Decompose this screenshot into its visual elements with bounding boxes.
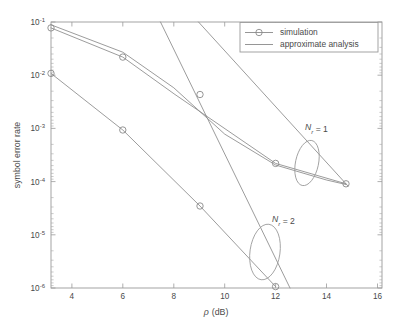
figure-container: 4 6 8 10 12 14 16 [0, 0, 398, 326]
legend[interactable]: simulation approximate analysis [240, 23, 378, 53]
annotation-label-nr-1: Nr = 1 [305, 122, 328, 135]
annotation-label-nr-2: Nr = 2 [272, 214, 295, 227]
y-tick-base: 10 [31, 71, 41, 80]
legend-label-simulation: simulation [280, 27, 318, 37]
series-sim-nr2 [48, 70, 279, 290]
y-tick-exponent: -1 [40, 17, 46, 23]
series-approx-nr2-a [161, 22, 291, 288]
y-tick-exponent: -5 [40, 230, 46, 236]
y-tick-base: 10 [31, 178, 41, 187]
y-tick-label: 10-4 [31, 177, 46, 187]
y-axis-title: symbol error rate [12, 122, 22, 189]
x-tick-label: 14 [322, 292, 332, 301]
y-tick-exponent: -3 [40, 123, 46, 129]
y-tick-label: 10-3 [31, 123, 46, 133]
annotation-labels: Nr = 1 Nr = 2 [272, 122, 328, 227]
y-tick-exponent: -2 [40, 70, 46, 76]
annotation-ellipse-nr2 [246, 222, 284, 282]
y-tick-exponent: -4 [40, 177, 46, 183]
x-tick-label: 10 [220, 292, 230, 301]
x-tick-label: 6 [121, 292, 126, 301]
y-tick-base: 10 [31, 284, 41, 293]
annotation-rest: = 2 [280, 216, 295, 226]
annotation-rest: = 1 [313, 124, 328, 134]
y-tick-label: 10-5 [31, 230, 46, 240]
annotation-ellipse-nr1 [291, 138, 323, 188]
x-tick-labels: 4 6 8 10 12 14 16 [70, 292, 383, 301]
y-tick-labels: 10-1 10-2 10-3 10-4 10-5 10-6 [31, 17, 46, 293]
chart-canvas: 4 6 8 10 12 14 16 [0, 0, 398, 326]
y-tick-base: 10 [31, 231, 41, 240]
x-tick-label: 8 [172, 292, 177, 301]
x-axis-title: ρ(dB) [203, 307, 229, 317]
y-tick-base: 10 [31, 124, 41, 133]
x-tick-label: 4 [70, 292, 75, 301]
y-axis-ticks [51, 22, 382, 288]
x-axis-title-symbol: ρ [203, 307, 209, 317]
y-tick-exponent: -6 [40, 283, 46, 289]
axes-frame [51, 22, 382, 288]
x-axis-ticks [72, 22, 378, 288]
y-axis-minor-ticks [51, 38, 382, 286]
y-tick-label: 10-1 [31, 17, 46, 27]
x-tick-label: 12 [271, 292, 281, 301]
x-tick-label: 16 [373, 292, 383, 301]
x-axis-title-unit: (dB) [212, 307, 229, 317]
y-tick-label: 10-2 [31, 70, 46, 80]
y-tick-label: 10-6 [31, 283, 46, 293]
legend-label-approximate-analysis: approximate analysis [280, 39, 359, 49]
y-tick-base: 10 [31, 18, 41, 27]
data-point-marker [197, 91, 203, 97]
